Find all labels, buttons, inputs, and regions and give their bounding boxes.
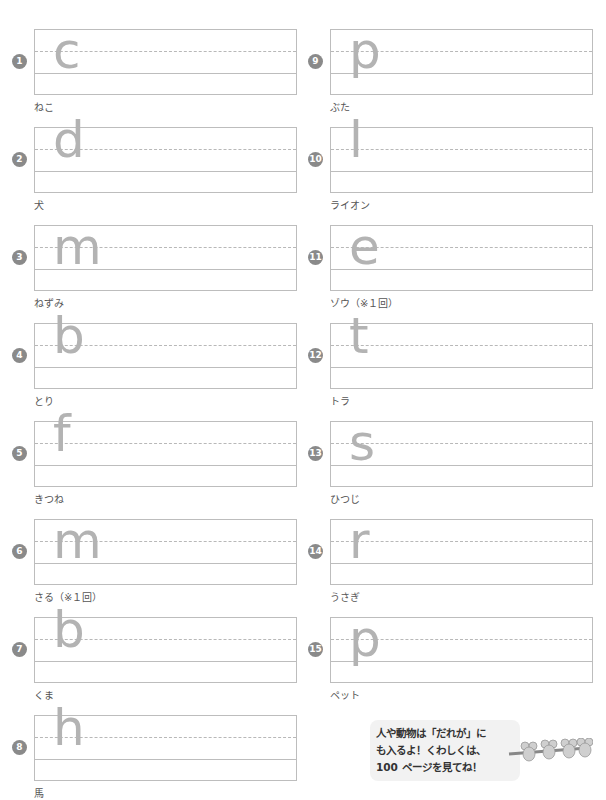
- writing-box[interactable]: p: [330, 29, 593, 95]
- guide-letter: p: [349, 614, 381, 664]
- item-number-badge: 6: [12, 544, 27, 559]
- guide-letter: h: [53, 703, 85, 753]
- item-number-badge: 14: [308, 544, 323, 559]
- writing-box[interactable]: b: [34, 617, 297, 683]
- guide-letter: s: [349, 418, 375, 468]
- item-number-badge: 12: [308, 348, 323, 363]
- item-number-badge: 2: [12, 152, 27, 167]
- tracing-item: 12tトラ: [308, 323, 598, 419]
- item-number-badge: 7: [12, 642, 27, 657]
- writing-box[interactable]: r: [330, 519, 593, 585]
- guide-letter: b: [53, 311, 85, 361]
- guide-letter: p: [349, 26, 381, 76]
- item-number-badge: 4: [12, 348, 27, 363]
- item-number-badge: 8: [12, 740, 27, 755]
- writing-box[interactable]: c: [34, 29, 297, 95]
- animal-label: ペット: [330, 687, 360, 702]
- writing-box[interactable]: t: [330, 323, 593, 389]
- guide-letter: l: [349, 115, 363, 165]
- writing-box[interactable]: b: [34, 323, 297, 389]
- item-number-badge: 5: [12, 446, 27, 461]
- guide-letter: c: [53, 26, 81, 76]
- writing-box[interactable]: s: [330, 421, 593, 487]
- animal-label: ねこ: [34, 99, 54, 114]
- tracing-item: 10lライオン: [308, 127, 598, 223]
- guide-letter: e: [349, 222, 380, 272]
- guide-letter: r: [349, 516, 370, 566]
- tracing-item: 8h馬: [12, 715, 302, 800]
- item-number-badge: 15: [308, 642, 323, 657]
- item-number-badge: 11: [308, 250, 323, 265]
- midline-dashed: [331, 541, 592, 542]
- item-number-badge: 1: [12, 54, 27, 69]
- tracing-item: 2d犬: [12, 127, 302, 223]
- midline-dashed: [35, 443, 296, 444]
- writing-box[interactable]: p: [330, 617, 593, 683]
- baseline: [331, 367, 592, 368]
- tracing-item: 15pペット: [308, 617, 598, 713]
- animal-label: くま: [34, 687, 54, 702]
- animal-label: トラ: [330, 393, 350, 408]
- animal-label: うさぎ: [330, 589, 360, 604]
- guide-letter: d: [53, 115, 85, 165]
- baseline: [35, 759, 296, 760]
- guide-letter: b: [53, 605, 85, 655]
- baseline: [35, 171, 296, 172]
- writing-box[interactable]: m: [34, 225, 297, 291]
- guide-letter: t: [349, 311, 369, 361]
- writing-box[interactable]: h: [34, 715, 297, 781]
- tracing-item: 13sひつじ: [308, 421, 598, 517]
- writing-box[interactable]: f: [34, 421, 297, 487]
- item-number-badge: 10: [308, 152, 323, 167]
- guide-letter: m: [53, 516, 102, 566]
- animal-label: きつね: [34, 491, 64, 506]
- baseline: [35, 367, 296, 368]
- animal-label: ひつじ: [330, 491, 360, 506]
- hint-note: 人や動物は「だれが」に も入るよ！くわしくは、 100 ページを見てね！: [370, 720, 520, 781]
- mouse-mascots-icon: [507, 738, 593, 766]
- baseline: [35, 661, 296, 662]
- hint-line-2: も入るよ！くわしくは、: [376, 742, 514, 759]
- writing-box[interactable]: e: [330, 225, 593, 291]
- tracing-item: 14rうさぎ: [308, 519, 598, 615]
- guide-letter: f: [53, 409, 71, 459]
- animal-label: ライオン: [330, 197, 370, 212]
- midline-dashed: [331, 149, 592, 150]
- item-number-badge: 13: [308, 446, 323, 461]
- hint-line-1: 人や動物は「だれが」に: [376, 725, 514, 742]
- animal-label: ぶた: [330, 99, 350, 114]
- item-number-badge: 3: [12, 250, 27, 265]
- writing-box[interactable]: m: [34, 519, 297, 585]
- writing-box[interactable]: l: [330, 127, 593, 193]
- animal-label: 犬: [34, 197, 44, 212]
- midline-dashed: [331, 345, 592, 346]
- guide-letter: m: [53, 222, 102, 272]
- item-number-badge: 9: [308, 54, 323, 69]
- animal-label: 馬: [34, 785, 44, 800]
- baseline: [35, 465, 296, 466]
- writing-box[interactable]: d: [34, 127, 297, 193]
- hint-line-3: 100 ページを見てね！: [376, 759, 514, 776]
- animal-label: とり: [34, 393, 54, 408]
- tracing-item: 5fきつね: [12, 421, 302, 517]
- baseline: [331, 171, 592, 172]
- baseline: [331, 563, 592, 564]
